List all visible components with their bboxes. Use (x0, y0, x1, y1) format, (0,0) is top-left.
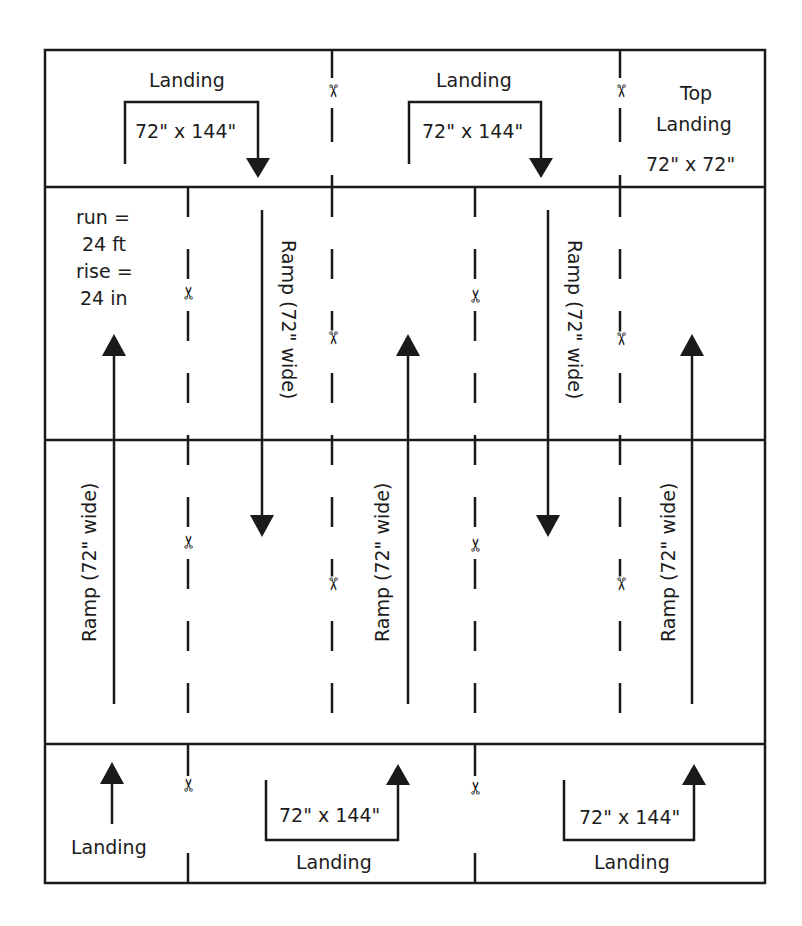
scissors-icon: ✂ (324, 330, 342, 345)
ramp-5-label: Ramp (72" wide) (659, 483, 678, 642)
scissors-icon: ✂ (612, 576, 630, 591)
bottom-landing-2-size: 72" x 144" (279, 806, 380, 825)
bottom-landing-3-title: Landing (594, 853, 670, 872)
scissors-icon: ✂ (612, 331, 630, 346)
scissors-icon: ✂ (180, 534, 198, 549)
scissors-icon: ✂ (180, 777, 198, 792)
ramp-1-label: Ramp (72" wide) (80, 483, 99, 642)
scissors-icon: ✂ (612, 83, 630, 98)
landing-1-title: Landing (149, 71, 225, 90)
scissors-icon: ✂ (324, 83, 342, 98)
run-label: run = (76, 208, 130, 227)
scissors-icon: ✂ (467, 288, 485, 303)
bottom-landing-3-size: 72" x 144" (579, 808, 680, 827)
rise-value: 24 in (80, 289, 128, 308)
ramp-diagram-lines (0, 0, 802, 926)
landing-1-size: 72" x 144" (135, 122, 236, 141)
scissors-icon: ✂ (467, 780, 485, 795)
landing-2-title: Landing (436, 71, 512, 90)
ramp-4-label: Ramp (72" wide) (565, 240, 584, 399)
bottom-landing-2-title: Landing (296, 853, 372, 872)
landing-2-size: 72" x 144" (422, 122, 523, 141)
scissors-icon: ✂ (324, 576, 342, 591)
top-landing-title-line1: Top (680, 84, 712, 103)
run-value: 24 ft (82, 235, 126, 254)
top-landing-title-line2: Landing (656, 115, 732, 134)
ramp-2-label: Ramp (72" wide) (279, 240, 298, 399)
ramp-3-label: Ramp (72" wide) (373, 483, 392, 642)
scissors-icon: ✂ (467, 537, 485, 552)
bottom-landing-1-title: Landing (71, 838, 147, 857)
top-landing-size: 72" x 72" (646, 155, 735, 174)
scissors-icon: ✂ (180, 285, 198, 300)
rise-label: rise = (76, 262, 133, 281)
